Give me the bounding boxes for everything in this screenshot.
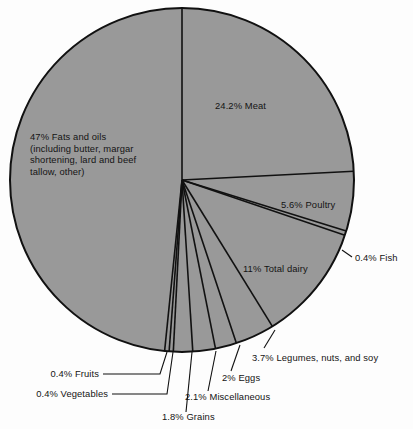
slice-label-legumes: 3.7% Legumes, nuts, and soy	[252, 352, 378, 364]
slice-label-eggs: 2% Eggs	[222, 372, 260, 384]
slice-label-fruits: 0.4% Fruits	[24, 368, 99, 380]
leader-line-legumes	[264, 330, 275, 348]
slice-label-grains: 1.8% Grains	[162, 411, 215, 423]
leader-line-vegetables	[112, 352, 173, 394]
pie-chart: 24.2% Meat 47% Fats and oils (including …	[0, 0, 413, 429]
slice-label-fish: 0.4% Fish	[355, 252, 398, 264]
slice-label-vegetables: 0.4% Vegetables	[12, 388, 108, 400]
pie-slices	[10, 8, 354, 352]
slice-label-total-dairy: 11% Total dairy	[243, 263, 308, 275]
leader-line-eggs	[231, 345, 240, 371]
slice-label-poultry: 5.6% Poultry	[281, 199, 335, 211]
slice-label-miscellaneous: 2.1% Miscellaneous	[185, 391, 270, 403]
leader-line-fruits	[103, 352, 167, 374]
leader-line-fish	[342, 250, 352, 257]
slice-label-meat: 24.2% Meat	[215, 100, 266, 112]
slice-label-fats-and-oils: 47% Fats and oils (including butter, mar…	[30, 131, 136, 177]
pie-chart-canvas	[0, 0, 413, 429]
leader-line-miscellaneous	[208, 351, 216, 391]
leader-line-grains	[186, 352, 192, 412]
